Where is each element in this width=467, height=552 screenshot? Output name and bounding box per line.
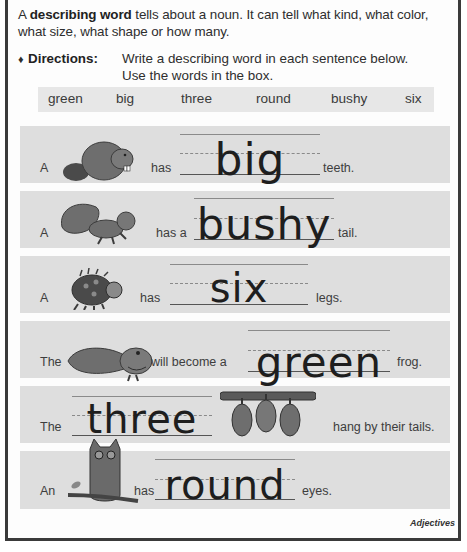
answer-word: bushy <box>194 203 334 246</box>
sentence-text: eyes. <box>302 484 332 498</box>
sentence-row-6: An has round eyes. <box>20 451 450 509</box>
word-box: green big three round bushy six <box>38 87 434 112</box>
sentence-text: teeth. <box>323 161 354 175</box>
sentence-text: A <box>40 226 48 240</box>
sentence-row-1: A has big teeth. <box>20 126 450 183</box>
answer-writing-lines: three <box>72 396 212 438</box>
directions-line-2: Use the words in the box. <box>122 67 273 84</box>
directions-line-1: Write a describing word in each sentence… <box>122 50 408 67</box>
directions-heading: ♦Directions: <box>18 50 98 68</box>
beaver-icon <box>62 137 142 183</box>
sentence-row-5: The three hang by their tails. <box>20 386 450 443</box>
footer-label: Adjectives <box>410 518 455 528</box>
answer-word: three <box>72 399 212 439</box>
sentence-text: will become a <box>151 355 227 369</box>
answer-word: green <box>248 342 390 384</box>
sentence-text: frog. <box>397 355 422 369</box>
sentence-row-2: A has a bushy tail. <box>20 191 450 248</box>
sentence-text: has <box>140 291 160 305</box>
squirrel-icon <box>58 199 148 245</box>
sentence-text: has <box>151 161 171 175</box>
sentence-row-4: The will become a green frog. <box>20 321 450 378</box>
word-box-item: three <box>181 91 212 106</box>
word-box-item: bushy <box>331 91 367 106</box>
sentence-text: A <box>40 291 48 305</box>
word-box-item: green <box>48 91 83 106</box>
answer-word: round <box>155 465 295 505</box>
sentence-text: The <box>40 355 62 369</box>
sentence-text: A <box>40 161 48 175</box>
tadpole-icon <box>66 341 158 383</box>
sentence-text: An <box>40 484 55 498</box>
answer-writing-lines: round <box>155 459 295 503</box>
intro-paragraph: A describing word tells about a noun. It… <box>18 6 458 40</box>
opossums-icon <box>220 386 316 444</box>
sentence-text: legs. <box>316 291 342 305</box>
directions-label: Directions: <box>28 51 98 66</box>
answer-word: six <box>170 268 308 308</box>
sentence-text: has a <box>156 226 187 240</box>
word-box-item: six <box>405 91 422 106</box>
sentence-row-3: A has six legs. <box>20 256 450 313</box>
answer-writing-lines: bushy <box>194 198 334 246</box>
diamond-bullet-icon: ♦ <box>18 51 28 68</box>
owl-icon <box>64 439 144 513</box>
answer-word: big <box>180 138 320 182</box>
sentence-text: hang by their tails. <box>333 420 434 434</box>
sentence-text: has <box>134 484 154 498</box>
answer-writing-lines: big <box>180 134 320 182</box>
ladybug-icon <box>62 268 134 310</box>
sentence-text: tail. <box>338 226 357 240</box>
intro-term: describing word <box>30 7 132 22</box>
intro-prefix: A <box>18 7 30 22</box>
answer-writing-lines: green <box>248 330 390 376</box>
word-box-item: round <box>256 91 291 106</box>
sentence-text: The <box>40 420 62 434</box>
answer-writing-lines: six <box>170 264 308 310</box>
word-box-item: big <box>116 91 134 106</box>
